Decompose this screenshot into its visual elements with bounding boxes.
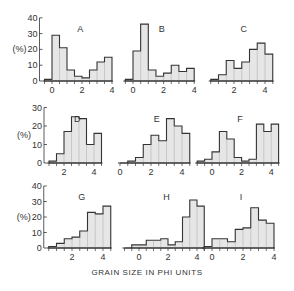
x-tick-label: 4 bbox=[100, 252, 105, 262]
y-tick-label: 0 bbox=[37, 243, 42, 253]
x-tick-label: 0 bbox=[209, 167, 214, 177]
y-tick-label: 20 bbox=[32, 121, 42, 131]
histogram-bars bbox=[120, 119, 190, 163]
panel-title: F bbox=[237, 114, 243, 124]
panel-a: 024A010203040(%) bbox=[13, 13, 115, 95]
y-tick-label: 30 bbox=[32, 197, 42, 207]
panel-title: A bbox=[77, 24, 83, 34]
x-tick-label: 0 bbox=[209, 252, 214, 262]
y-tick-label: 10 bbox=[32, 140, 42, 150]
y-axis-label: (%) bbox=[17, 130, 31, 140]
y-tick-label: 20 bbox=[32, 212, 42, 222]
y-axis-label: (%) bbox=[17, 212, 31, 222]
x-tick-label: 4 bbox=[109, 85, 114, 95]
x-tick-label: 2 bbox=[69, 252, 74, 262]
panel-title: H bbox=[163, 192, 170, 202]
panel-title: G bbox=[78, 192, 85, 202]
y-tick-label: 10 bbox=[32, 228, 42, 238]
x-tick-label: 0 bbox=[49, 85, 54, 95]
histogram-bars bbox=[204, 208, 274, 248]
x-tick-label: 4 bbox=[269, 167, 274, 177]
panel-f: 024F bbox=[195, 114, 279, 178]
panel-title: C bbox=[241, 24, 248, 34]
x-tick-label: 0 bbox=[117, 167, 122, 177]
x-tick-label: 2 bbox=[240, 252, 245, 262]
y-tick-label: 0 bbox=[37, 158, 42, 168]
x-tick-label: 2 bbox=[161, 85, 166, 95]
x-axis-title: GRAIN SIZE IN PHI UNITS bbox=[0, 268, 294, 277]
x-tick-label: 2 bbox=[165, 252, 170, 262]
panel-b: 024B bbox=[123, 24, 196, 95]
histogram-bars bbox=[197, 124, 278, 163]
x-tick-label: 0 bbox=[130, 85, 135, 95]
panel-i: 024I bbox=[202, 192, 276, 262]
y-tick-label: 40 bbox=[32, 181, 42, 191]
x-tick-label: 2 bbox=[231, 85, 236, 95]
y-tick-label: 30 bbox=[32, 103, 42, 113]
panel-h: 024H bbox=[123, 192, 206, 262]
x-tick-label: 2 bbox=[61, 167, 66, 177]
y-axis-label: (%) bbox=[13, 44, 27, 54]
panel-g: 24G010203040(%) bbox=[17, 181, 112, 262]
x-tick-label: 4 bbox=[271, 252, 276, 262]
y-tick-label: 0 bbox=[32, 76, 37, 86]
histogram-bars bbox=[125, 200, 205, 248]
panel-title: B bbox=[159, 24, 165, 34]
x-tick-label: 4 bbox=[179, 167, 184, 177]
x-tick-label: 0 bbox=[136, 252, 141, 262]
x-tick-label: 2 bbox=[239, 167, 244, 177]
panel-c: 24C bbox=[209, 24, 274, 95]
panel-title: E bbox=[154, 114, 160, 124]
y-tick-label: 20 bbox=[27, 44, 37, 54]
y-tick-label: 30 bbox=[27, 29, 37, 39]
x-tick-label: 4 bbox=[91, 167, 96, 177]
panel-d: 24D0102030(%) bbox=[17, 103, 103, 178]
panel-title: I bbox=[240, 192, 243, 202]
x-tick-label: 4 bbox=[194, 252, 199, 262]
panel-e: 024E bbox=[117, 114, 190, 178]
x-tick-label: 2 bbox=[148, 167, 153, 177]
histogram-bars bbox=[49, 117, 102, 163]
y-tick-label: 40 bbox=[27, 13, 37, 23]
histogram-grid: 024A010203040(%)024B24C24D0102030(%)024E… bbox=[0, 0, 294, 291]
x-tick-label: 4 bbox=[192, 85, 197, 95]
y-tick-label: 10 bbox=[27, 60, 37, 70]
histogram-bars bbox=[45, 35, 113, 81]
x-tick-label: 4 bbox=[262, 85, 267, 95]
panel-title: D bbox=[74, 114, 81, 124]
x-tick-label: 2 bbox=[79, 85, 84, 95]
